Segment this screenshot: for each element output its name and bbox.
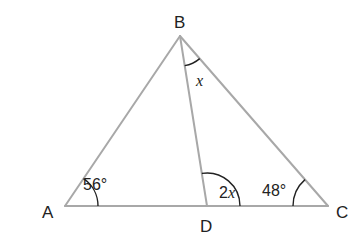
angle-arc-c xyxy=(293,180,305,206)
vertex-label-d: D xyxy=(200,217,212,236)
angle-label-2x: 2x xyxy=(219,184,235,201)
vertex-label-a: A xyxy=(42,203,54,222)
angle-label-a: 56° xyxy=(83,176,107,193)
angle-label-2x-var: x xyxy=(227,184,235,201)
angle-label-x: x xyxy=(195,72,203,89)
vertex-label-c: C xyxy=(336,203,348,222)
triangle-diagram: B A D C 56° x 2x 48° xyxy=(0,0,364,247)
vertex-label-b: B xyxy=(174,13,185,32)
angle-label-c: 48° xyxy=(262,182,286,199)
angle-arc-b-x xyxy=(185,59,200,66)
angle-label-2x-coef: 2 xyxy=(219,184,228,201)
